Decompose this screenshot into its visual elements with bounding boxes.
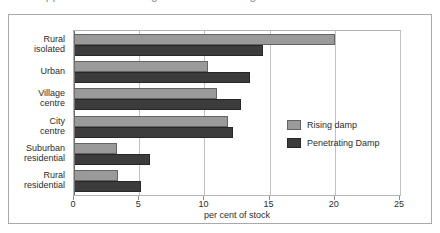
bar-group	[74, 170, 400, 192]
category-label: Citycentre	[7, 116, 65, 136]
cropped-title-sliver: a cropped line of heading text above the…	[0, 0, 440, 12]
legend-label: Rising damp	[307, 120, 357, 130]
category-label: Ruralisolated	[7, 34, 65, 54]
bar-group	[74, 34, 400, 56]
bar-group	[74, 61, 400, 83]
bar	[74, 181, 141, 192]
tick-label-25: 25	[394, 199, 404, 209]
legend-item: Rising damp	[287, 118, 380, 132]
bar	[74, 72, 250, 83]
bar	[74, 170, 118, 181]
bar	[74, 154, 150, 165]
gridline-0	[74, 31, 75, 195]
bar	[74, 143, 117, 154]
bar	[74, 34, 335, 45]
bar	[74, 45, 263, 56]
bar-series-layer	[74, 31, 400, 195]
bar	[74, 127, 233, 138]
legend-label: Penetrating Damp	[307, 138, 380, 148]
category-label: Villagecentre	[7, 88, 65, 108]
tick-label-0: 0	[70, 199, 75, 209]
bar	[74, 88, 217, 99]
category-label: Ruralresidential	[7, 170, 65, 190]
tick-label-15: 15	[264, 199, 274, 209]
x-axis-title: per cent of stock	[73, 210, 401, 220]
legend-swatch	[287, 120, 301, 130]
cropped-title-text: a cropped line of heading text above the…	[18, 0, 274, 2]
bar	[74, 99, 241, 110]
chart-legend: Rising dampPenetrating Damp	[287, 118, 380, 154]
bar	[74, 116, 228, 127]
plot-area	[73, 30, 401, 196]
bar	[74, 61, 208, 72]
tick-label-20: 20	[329, 199, 339, 209]
figure-frame: RuralisolatedUrbanVillagecentreCitycentr…	[8, 14, 432, 224]
bar-group	[74, 88, 400, 110]
gridline-25	[400, 31, 401, 195]
category-axis-labels: RuralisolatedUrbanVillagecentreCitycentr…	[9, 30, 69, 196]
legend-swatch	[287, 138, 301, 148]
legend-item: Penetrating Damp	[287, 136, 380, 150]
tick-label-5: 5	[136, 199, 141, 209]
category-label: Urban	[7, 66, 65, 76]
category-label: Suburbanresidential	[7, 143, 65, 163]
tick-label-10: 10	[198, 199, 208, 209]
